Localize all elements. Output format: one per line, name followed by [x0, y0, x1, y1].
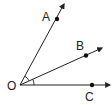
angle-arc-boc: [33, 79, 34, 85]
label-c: C: [85, 90, 94, 104]
angle-arc-aob: [25, 76, 29, 81]
label-b: B: [76, 39, 84, 53]
point-c-dot: [90, 83, 94, 87]
angle-diagram: O A B C: [0, 0, 112, 105]
point-a-dot: [55, 17, 59, 21]
point-b-dot: [84, 53, 88, 57]
label-a: A: [42, 10, 50, 24]
ray-ob: [20, 48, 102, 85]
label-o: O: [7, 79, 16, 93]
